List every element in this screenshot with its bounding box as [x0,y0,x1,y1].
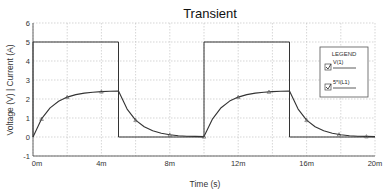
y-tick-label: 6 [26,19,30,28]
x-axis-ticks: 0m4m8m12m16m20m [32,159,383,168]
x-tick-label: 4m [96,159,106,168]
legend-label-v1: V(1) [333,59,344,65]
y-tick-label: -1 [23,152,30,161]
y-axis-label: Voltage (V) | Current (A) [5,44,15,135]
y-axis-ticks: 6543210-1 [23,19,30,161]
legend-label-il1: 5*I(L1) [333,79,350,85]
x-tick-label: 0m [32,159,42,168]
x-tick-label: 16m [299,159,314,168]
x-tick-label: 20m [368,159,383,168]
y-tick-label: 5 [26,38,30,47]
chart-title: Transient [183,6,237,21]
chart-canvas: Transient 6543210-1 0m4m8m12m16m20m Volt… [0,0,383,193]
x-axis-label: Time (s) [190,179,221,189]
legend-title: LEGEND [332,51,357,57]
legend: LEGEND V(1) 5*I(L1) [320,47,368,97]
y-tick-label: 3 [26,76,30,85]
x-tick-label: 12m [231,159,246,168]
y-tick-label: 2 [26,95,30,104]
y-tick-label: 1 [26,114,30,123]
y-tick-label: 0 [26,133,30,142]
x-tick-label: 8m [165,159,175,168]
transient-chart: Transient 6543210-1 0m4m8m12m16m20m Volt… [0,0,383,193]
y-tick-label: 4 [26,57,30,66]
